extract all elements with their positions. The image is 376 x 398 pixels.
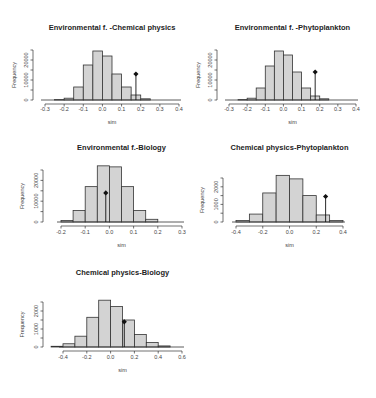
histogram-bar: [302, 88, 311, 100]
histogram-bar: [134, 334, 146, 347]
x-tick-label: 0.4: [352, 106, 360, 112]
chart-title: Environmental f.-Biology: [77, 143, 167, 152]
histogram-bars: [61, 166, 158, 222]
x-tick-label: -0.3: [224, 106, 233, 112]
x-tick-label: 0.4: [175, 106, 183, 112]
x-tick-label: 0.2: [137, 106, 145, 112]
histogram-bar: [256, 88, 265, 100]
x-tick-label: -0.2: [59, 106, 68, 112]
histogram-svg: Chemical physics-Biology-0.4-0.20.00.20.…: [0, 265, 190, 375]
x-tick-label: 0.1: [118, 106, 126, 112]
y-tick-label: 0: [33, 345, 39, 348]
x-tick-label: 0.3: [178, 229, 186, 235]
histogram-panel: Environmental f. -Chemical physics-0.3-0…: [0, 20, 190, 130]
chart-title: Environmental f. -Phytoplankton: [235, 23, 351, 32]
histogram-bar: [122, 87, 132, 100]
x-axis: -0.3-0.2-0.10.00.10.20.30.4: [40, 104, 183, 112]
histogram-bar: [134, 211, 146, 222]
y-axis: 010002000: [213, 178, 223, 224]
y-tick-label: 0: [33, 220, 39, 223]
histogram-bar: [265, 66, 274, 100]
y-tick-label: 2000: [213, 181, 219, 193]
y-tick-label: 1000: [33, 323, 39, 335]
y-axis-label: Frequency: [195, 62, 201, 88]
y-tick-label: 20000: [33, 173, 39, 188]
histogram-bar: [111, 307, 123, 348]
x-tick-label: -0.1: [261, 106, 270, 112]
histogram-bar: [75, 336, 87, 347]
chart-title: Environmental f. -Chemical physics: [49, 23, 176, 32]
histogram-bar: [249, 214, 262, 222]
x-tick-label: 0.2: [131, 354, 139, 360]
x-axis-label: sim: [118, 367, 127, 373]
x-tick-label: -0.3: [40, 106, 49, 112]
histogram-bar: [85, 187, 97, 222]
histogram-bar: [274, 51, 283, 100]
x-tick-label: 0.0: [106, 229, 114, 235]
histogram-bar: [97, 166, 109, 222]
x-axis: -0.4-0.20.00.20.40.6: [58, 351, 186, 360]
histogram-bar: [112, 74, 122, 100]
x-tick-label: 0.1: [130, 229, 138, 235]
histogram-bar: [73, 211, 85, 222]
x-tick-label: 0.6: [178, 354, 186, 360]
x-tick-label: 0.1: [298, 106, 306, 112]
x-axis-label: sim: [285, 242, 294, 248]
x-axis: -0.4-0.20.00.20.4: [231, 226, 347, 235]
x-tick-label: 0.3: [334, 106, 342, 112]
y-axis: 01000020000: [23, 50, 33, 102]
histogram-bar: [83, 65, 93, 100]
histogram-svg: Chemical physics-Phytoplankton-0.4-0.20.…: [188, 140, 376, 255]
x-tick-label: 0.2: [154, 229, 162, 235]
x-tick-label: -0.1: [79, 106, 88, 112]
histogram-bar: [263, 193, 276, 222]
histogram-bar: [74, 87, 84, 100]
y-tick-label: 2000: [33, 305, 39, 317]
histogram-bar: [146, 343, 158, 348]
x-axis: -0.2-0.10.00.10.20.3: [56, 226, 186, 235]
x-tick-label: 0.0: [99, 106, 107, 112]
x-axis-label: sim: [288, 119, 297, 125]
x-tick-label: 0.0: [107, 354, 115, 360]
x-tick-label: 0.2: [316, 106, 324, 112]
x-tick-label: 0.0: [280, 106, 288, 112]
x-tick-label: 0.3: [156, 106, 164, 112]
y-tick-label: 10000: [23, 72, 29, 87]
x-tick-label: -0.4: [231, 229, 240, 235]
histogram-bar: [63, 344, 75, 347]
histogram-bar: [99, 300, 111, 347]
histogram-bar: [87, 317, 99, 347]
observed-value-marker-icon: [313, 69, 318, 74]
y-tick-label: 1000: [213, 198, 219, 210]
histogram-svg: Environmental f. -Phytoplankton-0.3-0.2-…: [188, 20, 376, 130]
x-tick-label: -0.2: [56, 229, 65, 235]
chart-title: Chemical physics-Biology: [76, 268, 170, 277]
observed-value-marker-icon: [323, 194, 328, 199]
y-axis: 010002000: [33, 302, 43, 349]
y-axis-label: Frequency: [19, 311, 25, 337]
y-axis-label: Frequency: [19, 183, 25, 209]
y-tick-label: 10000: [33, 194, 39, 209]
x-tick-label: -0.1: [80, 229, 89, 235]
histogram-bars: [236, 175, 343, 222]
histogram-bar: [109, 167, 121, 222]
x-axis: -0.3-0.2-0.10.00.10.20.30.4: [224, 104, 360, 112]
histogram-panel: Chemical physics-Biology-0.4-0.20.00.20.…: [0, 265, 190, 375]
x-tick-label: -0.4: [58, 354, 67, 360]
histogram-bar: [102, 56, 112, 100]
histogram-bar: [303, 196, 316, 222]
x-tick-label: 0.2: [312, 229, 320, 235]
histogram-bar: [146, 219, 158, 222]
x-axis-label: sim: [117, 242, 126, 248]
histogram-bar: [276, 175, 289, 222]
histogram-panel: Chemical physics-Phytoplankton-0.4-0.20.…: [188, 140, 376, 255]
y-tick-label: 20000: [23, 52, 29, 67]
y-axis-label: Frequency: [11, 62, 17, 88]
y-tick-label: 0: [23, 98, 29, 101]
histogram-svg: Environmental f. -Chemical physics-0.3-0…: [0, 20, 190, 130]
x-axis-label: sim: [108, 119, 117, 125]
y-tick-label: 20000: [207, 52, 213, 67]
x-tick-label: -0.2: [258, 229, 267, 235]
histogram-bar: [316, 215, 329, 222]
x-tick-label: 0.0: [286, 229, 294, 235]
